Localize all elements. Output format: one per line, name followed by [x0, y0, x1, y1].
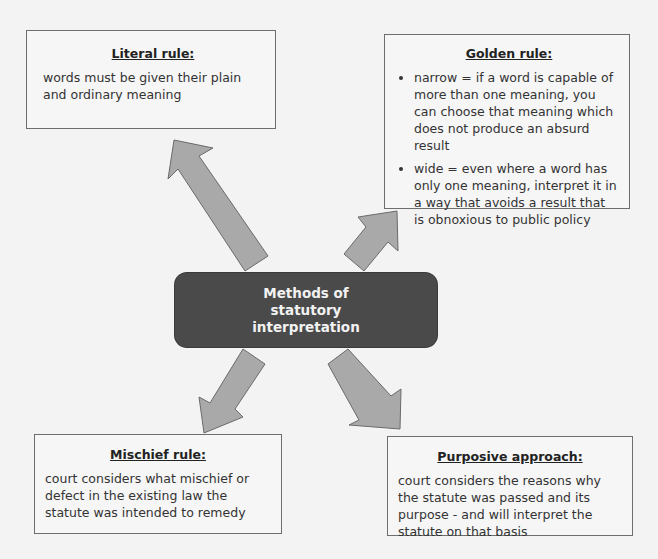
- golden-rule-wide: wide = even where a word has only one me…: [414, 160, 619, 228]
- golden-rule-list: narrow = if a word is capable of more th…: [399, 69, 619, 228]
- golden-rule-title: Golden rule:: [399, 45, 619, 62]
- arrow-to-literal-rule: [168, 140, 268, 271]
- literal-rule-title: Literal rule:: [43, 45, 263, 62]
- golden-rule-box: Golden rule: narrow = if a word is capab…: [384, 34, 630, 209]
- golden-rule-narrow: narrow = if a word is capable of more th…: [414, 69, 619, 154]
- mischief-rule-title: Mischief rule:: [45, 446, 271, 463]
- literal-rule-text: words must be given their plain and ordi…: [43, 69, 263, 103]
- central-topic-label: Methods of statutory interpretation: [231, 285, 381, 336]
- purposive-approach-text: court considers the reasons why the stat…: [398, 472, 622, 540]
- mischief-rule-text: court considers what mischief or defect …: [45, 470, 271, 521]
- arrow-to-purposive-approach: [328, 349, 401, 429]
- mischief-rule-box: Mischief rule: court considers what misc…: [34, 434, 282, 534]
- arrow-to-golden-rule: [344, 211, 398, 271]
- purposive-approach-box: Purposive approach: court considers the …: [387, 436, 633, 536]
- literal-rule-box: Literal rule: words must be given their …: [26, 30, 276, 129]
- arrow-to-mischief-rule: [199, 349, 265, 433]
- purposive-approach-title: Purposive approach:: [398, 448, 622, 465]
- central-topic-node: Methods of statutory interpretation: [175, 273, 437, 347]
